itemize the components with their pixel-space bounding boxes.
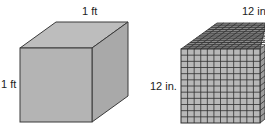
gridded-cube-twelve-inch [181,23,265,123]
side-edge-label-right: 12 in. [150,80,177,92]
side-edge-label-left: 1 ft [1,78,16,90]
top-edge-label-left: 1 ft [82,5,97,17]
cube-front-face [20,48,92,122]
solid-cube-one-foot [20,22,128,122]
top-edge-label-right: 12 in [242,5,265,17]
cube-comparison-diagram: 1 ft 1 ft 12 in 12 in. [0,0,265,128]
